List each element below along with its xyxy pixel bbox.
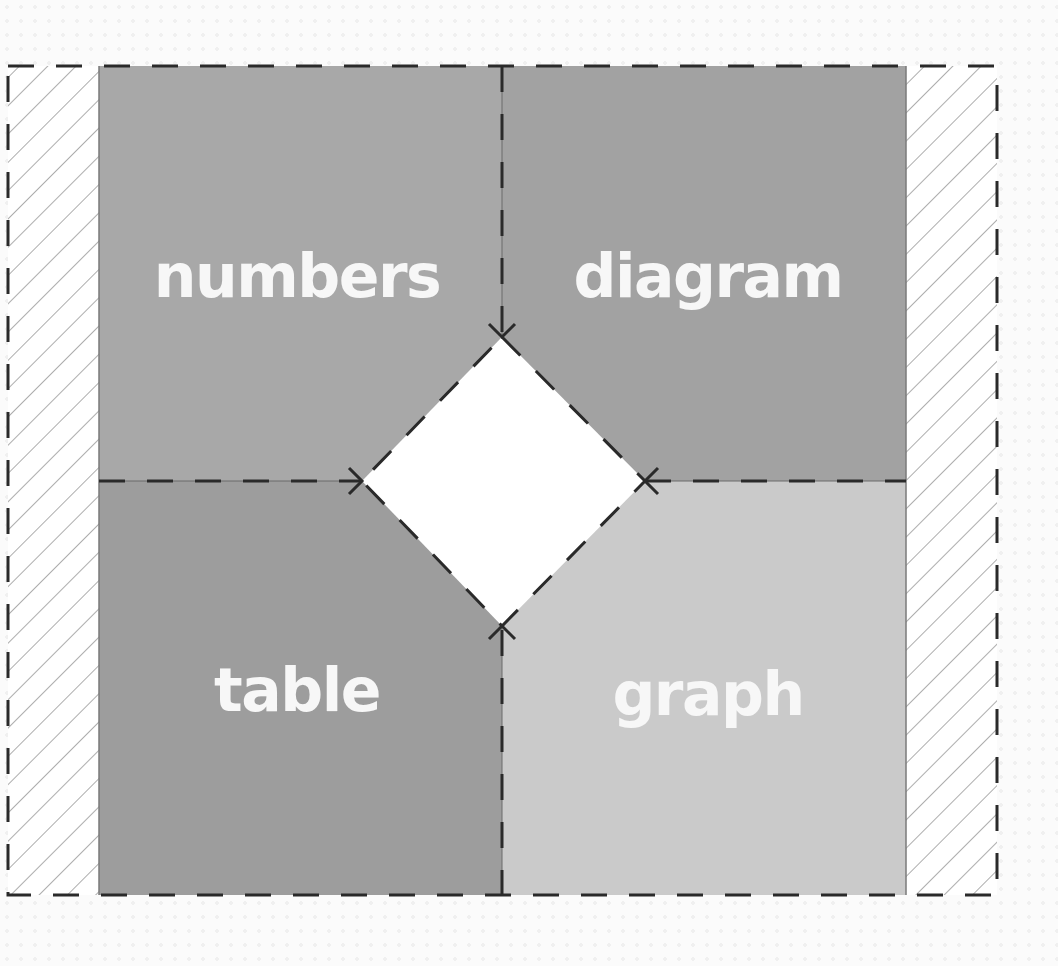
label-diagram: diagram xyxy=(573,246,842,306)
label-numbers: numbers xyxy=(154,246,440,306)
label-graph: graph xyxy=(612,664,803,724)
quadrant-diagram xyxy=(0,0,1058,966)
right-hatch-strip xyxy=(906,66,997,895)
left-hatch-strip xyxy=(8,66,99,895)
label-table: table xyxy=(214,660,380,720)
